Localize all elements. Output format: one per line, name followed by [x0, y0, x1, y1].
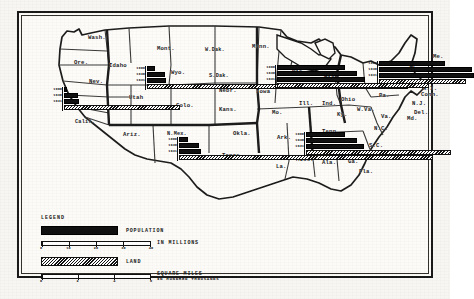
state-label-conn: Conn. [421, 91, 439, 98]
land-scale-tick-label: 0 [40, 279, 42, 283]
population-bar-row: 1930 [49, 93, 180, 98]
state-label-kans: Kans. [219, 106, 237, 113]
land-bar [179, 155, 434, 160]
state-label-ala: Ala. [322, 159, 336, 166]
map-frame: Wash.Ore.IdahoMont.W.Dak.Minn.Wyo.S.Dak.… [17, 11, 433, 278]
state-label-minn: Minn. [252, 43, 270, 50]
population-bar [64, 93, 79, 98]
bar-cluster-southwest-texas: 190019301931 [164, 137, 433, 160]
land-scale-tick-label: 6 [150, 279, 152, 283]
legend-land-units: SQUARE MILES IN HUNDRED THOUSANDS [157, 271, 219, 281]
population-bar-row: 1900 [164, 137, 433, 142]
state-label-la: La. [276, 163, 287, 170]
state-label-nc: N.C. [374, 125, 388, 132]
population-bar [147, 72, 165, 77]
legend-land-scalebar [41, 274, 151, 279]
state-label-ore: Ore. [74, 59, 88, 66]
state-label-ky: Ky. [337, 111, 348, 118]
cluster-baseline [62, 87, 63, 111]
population-bar-row: 1930 [164, 143, 433, 148]
population-bar-row: 1931 [49, 99, 180, 104]
land-scale-tick-label: 2 [77, 279, 79, 283]
legend-land-row: LAND [41, 257, 231, 266]
population-bar [147, 66, 156, 71]
state-label-wdak: W.Dak. [205, 47, 225, 53]
population-bar [277, 77, 365, 82]
state-label-mont: Mont. [157, 45, 175, 52]
map-legend: LEGEND POPULATION 010203040 IN MILLIONS … [41, 215, 231, 281]
land-bar-row [364, 79, 474, 84]
population-bar [277, 71, 358, 76]
state-label-md: Md. [407, 115, 418, 122]
land-bar [379, 79, 466, 84]
state-label-wash: Wash. [88, 34, 106, 41]
land-bar-row [164, 155, 433, 160]
state-label-ariz: Ariz. [123, 131, 141, 138]
population-bar-row: 1931 [164, 149, 433, 154]
legend-population-label: POPULATION [126, 228, 164, 234]
land-bar-row [49, 105, 180, 110]
legend-land-label: LAND [126, 259, 141, 265]
legend-population-scale-row: 010203040 IN MILLIONS [41, 240, 231, 246]
state-label-me: Me. [433, 53, 444, 60]
population-scale-tick-label: 30 [121, 246, 125, 250]
state-label-pa: Pa. [379, 92, 390, 99]
population-bar [64, 99, 79, 104]
state-label-ohio: Ohio [341, 96, 355, 103]
legend-land-scale: 0246 [41, 274, 151, 279]
state-label-idaho: Idaho [109, 62, 127, 69]
legend-population-row: POPULATION [41, 226, 231, 235]
state-label-nj: N.J. [412, 100, 426, 107]
population-bar [179, 149, 201, 154]
state-label-calif: Calif. [75, 119, 95, 125]
state-label-iowa: Iowa [256, 88, 270, 95]
legend-land-units-line2: IN HUNDRED THOUSANDS [157, 277, 219, 281]
legend-land-scale-row: 0246 SQUARE MILES IN HUNDRED THOUSANDS [41, 271, 231, 281]
legend-title: LEGEND [41, 215, 231, 221]
cluster-baseline [145, 66, 146, 90]
land-scale-tick-label: 4 [113, 279, 115, 283]
state-label-va: Va. [381, 113, 392, 120]
population-bar [379, 67, 472, 72]
population-bar [277, 65, 346, 70]
population-scale-tick-label: 40 [149, 246, 153, 250]
population-scale-tick-label: 0 [40, 246, 42, 250]
population-scale-tick-label: 10 [66, 246, 70, 250]
cluster-baseline [177, 137, 178, 161]
population-bar-row: 1930 [364, 67, 474, 72]
population-scale-tick [42, 242, 43, 247]
population-bar-row: 1931 [364, 73, 474, 78]
state-label-fla: Fla. [359, 168, 373, 175]
population-bar [179, 143, 200, 148]
land-scale-tick [42, 275, 43, 280]
state-label-ind: Ind. [322, 100, 336, 107]
population-bar [379, 73, 474, 78]
population-scale-tick-label: 20 [94, 246, 98, 250]
legend-population-swatch [41, 226, 118, 235]
population-bar [147, 78, 167, 83]
population-bar [179, 137, 189, 142]
state-label-ill: Ill. [299, 100, 313, 107]
population-bar-row: 1900 [364, 61, 474, 66]
legend-population-scale: 010203040 [41, 241, 151, 246]
bar-cluster-pacific-southwest: 190019301931 [49, 87, 180, 110]
cluster-baseline [275, 65, 276, 89]
state-label-okla: Okla. [233, 130, 251, 137]
bar-cluster-mid-atlantic-newengland: 190019301931 [364, 61, 474, 84]
land-bar [64, 105, 180, 110]
population-bar [64, 87, 68, 92]
state-label-nev: Nev. [89, 78, 103, 85]
legend-land-swatch [41, 257, 118, 266]
population-bar [379, 61, 445, 66]
cluster-baseline [377, 61, 378, 85]
legend-population-units: IN MILLIONS [157, 240, 199, 246]
state-label-mo: Mo. [272, 109, 283, 116]
state-label-wva: W.Va. [357, 106, 375, 113]
